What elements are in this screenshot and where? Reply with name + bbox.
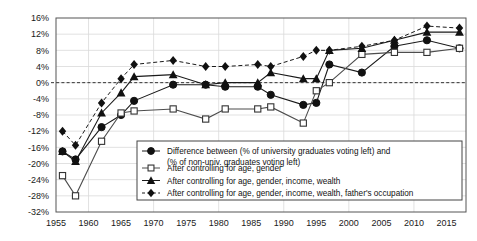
y-axis-tick-label: -20% — [28, 159, 49, 169]
x-axis-tick-label: 1990 — [274, 218, 294, 228]
x-axis-tick-label: 1975 — [176, 218, 196, 228]
marker-square — [222, 106, 228, 112]
marker-square — [118, 110, 124, 116]
marker-diamond — [300, 52, 307, 61]
marker-square — [59, 173, 65, 179]
legend-entry-3[interactable]: After controlling for age, gender, incom… — [142, 189, 414, 198]
y-axis-tick-label: 0% — [36, 78, 49, 88]
chart-plot: 16%12%8%4%0%-4%-8%-12%-16%-20%-24%-28%-3… — [0, 0, 477, 241]
y-axis-tick-label: 12% — [31, 29, 49, 39]
y-axis-tick-label: 4% — [36, 62, 49, 72]
x-axis-tick-label: 2000 — [339, 218, 359, 228]
marker-square — [148, 165, 154, 171]
x-axis-tick-label: 1995 — [306, 218, 326, 228]
marker-circle — [267, 91, 274, 98]
x-axis-tick-label: 1985 — [241, 218, 261, 228]
legend-label: After controlling for age, gender, incom… — [167, 189, 414, 198]
marker-square — [72, 193, 78, 199]
marker-circle — [313, 99, 320, 106]
y-axis-tick-label: -24% — [28, 175, 49, 185]
legend-entry-2[interactable]: After controlling for age, gender, incom… — [142, 176, 341, 185]
marker-square — [131, 108, 137, 114]
x-axis-tick-label: 1955 — [46, 218, 66, 228]
marker-square — [391, 49, 397, 55]
legend-label: Difference between (% of university grad… — [167, 147, 391, 156]
marker-square — [268, 104, 274, 110]
x-axis-tick-label: 2010 — [404, 218, 424, 228]
y-axis-tick-label: 8% — [36, 46, 49, 56]
marker-diamond — [169, 56, 176, 65]
x-axis-tick-label: 2005 — [371, 218, 391, 228]
marker-circle — [130, 97, 137, 104]
y-axis-tick-label: 16% — [31, 13, 49, 23]
marker-square — [300, 120, 306, 126]
marker-circle — [300, 101, 307, 108]
marker-diamond — [222, 62, 229, 71]
x-axis-tick-label: 1965 — [111, 218, 131, 228]
marker-circle — [326, 61, 333, 68]
x-axis-tick-label: 2015 — [436, 218, 456, 228]
x-axis-tick-label: 1960 — [79, 218, 99, 228]
marker-circle — [358, 69, 365, 76]
marker-circle — [423, 37, 430, 44]
marker-square — [170, 106, 176, 112]
y-axis-tick-label: -12% — [28, 126, 49, 136]
marker-diamond — [267, 62, 274, 71]
y-axis-tick-label: -28% — [28, 191, 49, 201]
marker-square — [98, 138, 104, 144]
marker-diamond — [202, 62, 209, 71]
marker-square — [255, 106, 261, 112]
y-axis-tick-label: -8% — [33, 110, 49, 120]
marker-diamond — [254, 60, 261, 69]
y-axis-tick-label: -4% — [33, 94, 49, 104]
marker-circle — [170, 81, 177, 88]
marker-triangle — [169, 70, 178, 78]
marker-square — [203, 116, 209, 122]
marker-square — [456, 45, 462, 51]
marker-diamond — [59, 127, 66, 136]
marker-square — [313, 88, 319, 94]
marker-diamond — [456, 24, 463, 33]
y-axis-tick-label: -16% — [28, 143, 49, 153]
marker-square — [326, 80, 332, 86]
chart-container: 16%12%8%4%0%-4%-8%-12%-16%-20%-24%-28%-3… — [0, 0, 477, 241]
y-axis-tick-label: -32% — [28, 207, 49, 217]
x-axis-tick-label: 1980 — [209, 218, 229, 228]
marker-diamond — [423, 22, 430, 31]
marker-circle — [98, 124, 105, 131]
marker-square — [359, 51, 365, 57]
marker-diamond — [313, 46, 320, 55]
marker-circle — [148, 148, 155, 155]
marker-square — [424, 49, 430, 55]
x-axis-tick-label: 1970 — [144, 218, 164, 228]
legend-label: After controlling for age, gender — [167, 164, 282, 173]
legend-label: After controlling for age, gender, incom… — [167, 177, 341, 186]
